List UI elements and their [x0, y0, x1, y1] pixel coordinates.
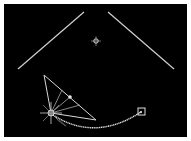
scene-drawing[interactable]	[0, 0, 191, 141]
handle-point[interactable]	[68, 95, 72, 99]
crosshair-icon[interactable]	[91, 36, 101, 46]
left-wall-line	[18, 12, 84, 69]
curve-end-dot	[140, 111, 142, 113]
right-wall-line	[108, 12, 174, 69]
